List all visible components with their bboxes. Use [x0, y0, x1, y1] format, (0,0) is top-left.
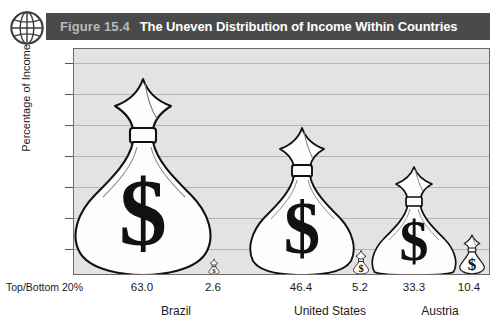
svg-text:$: $ — [119, 159, 167, 266]
y-axis-label: Percentage of Income — [20, 28, 32, 168]
money-bag-austria-top: $ — [368, 163, 460, 275]
figure-title-bar: Figure 15.4 The Uneven Distribution of I… — [46, 13, 490, 40]
svg-text:$: $ — [212, 267, 216, 275]
figure-title: The Uneven Distribution of Income Within… — [140, 19, 458, 34]
svg-text:$: $ — [468, 255, 477, 274]
money-bag-brazil-bottom: $ — [206, 258, 222, 275]
y-tickmark-70 — [65, 63, 73, 64]
y-tickmark-60 — [65, 94, 73, 95]
y-tickmark-30 — [65, 187, 73, 188]
y-tickmark-50 — [65, 125, 73, 126]
value-label-brazil-top: 63.0 — [131, 281, 153, 293]
money-bag-brazil-top: $ — [73, 73, 217, 275]
y-tickmark-40 — [65, 156, 73, 157]
svg-text:$: $ — [400, 208, 429, 273]
value-label-austria-top: 33.3 — [403, 281, 425, 293]
country-label-brazil: Brazil — [161, 304, 191, 318]
country-label-united-states: United States — [294, 304, 366, 318]
plot-area: $ $ $ — [73, 48, 490, 275]
value-label-us-top: 46.4 — [290, 281, 312, 293]
value-label-us-bottom: 5.2 — [352, 281, 368, 293]
y-tickmark-20 — [65, 218, 73, 219]
value-label-austria-bottom: 10.4 — [458, 281, 480, 293]
top-bottom-row-label: Top/Bottom 20% — [6, 281, 83, 293]
svg-text:$: $ — [284, 188, 321, 269]
y-tickmark-10 — [65, 249, 73, 250]
country-label-austria: Austria — [421, 304, 458, 318]
money-bag-united-states-top: $ — [245, 123, 359, 275]
figure-number: Figure 15.4 — [60, 19, 130, 34]
money-bag-austria-bottom: $ — [455, 233, 489, 275]
value-label-brazil-bottom: 2.6 — [205, 281, 221, 293]
gridline-70 — [74, 63, 489, 64]
svg-text:$: $ — [358, 263, 363, 274]
figure-root: Figure 15.4 The Uneven Distribution of I… — [0, 0, 502, 334]
